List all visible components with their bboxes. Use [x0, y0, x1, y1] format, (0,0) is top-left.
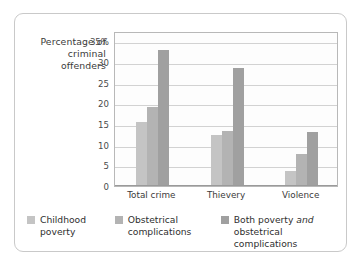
x-axis-category-label: Thievery [207, 190, 245, 200]
bar-group [211, 33, 244, 186]
x-axis-category-label: Violence [282, 190, 319, 200]
plot-area [114, 32, 338, 187]
bar [158, 50, 169, 186]
legend-swatch-icon [221, 216, 229, 224]
legend-item: Both poverty and obstetrical complicatio… [221, 214, 338, 250]
bar [307, 132, 318, 186]
bar-group [285, 33, 318, 186]
bar [233, 68, 244, 186]
y-axis-tick-label: 20 [98, 99, 109, 109]
legend-label: Childhood poverty [40, 214, 86, 238]
y-axis-tick-label: 15 [98, 120, 109, 130]
bar [296, 154, 307, 186]
bar [285, 171, 296, 186]
x-axis-category-label: Total crime [127, 190, 175, 200]
y-axis-tick-label: 30 [98, 58, 109, 68]
legend-swatch-icon [27, 216, 35, 224]
legend-item: Obstetrical complications [115, 214, 221, 250]
y-axis-tick-label: 10 [98, 141, 109, 151]
bar [147, 107, 158, 186]
chart-legend: Childhood povertyObstetrical complicatio… [27, 214, 338, 250]
legend-swatch-icon [115, 216, 123, 224]
bar [222, 131, 233, 186]
bar [211, 135, 222, 186]
chart-card: Percentage of criminal offenders 0510152… [14, 13, 347, 252]
legend-label: Obstetrical complications [128, 214, 192, 238]
y-axis-tick-label: 5 [104, 161, 109, 171]
legend-item: Childhood poverty [27, 214, 115, 250]
plot-wrapper: 05101520253035% Total crimeThieveryViole… [114, 32, 338, 187]
y-axis-tick-label: 25 [98, 79, 109, 89]
bar-group [136, 33, 169, 186]
bar [136, 122, 147, 186]
baseline-axis [115, 185, 337, 186]
legend-label: Both poverty and obstetrical complicatio… [234, 214, 338, 250]
y-axis-tick-label: 0 [104, 182, 109, 192]
y-axis-tick-label: 35% [90, 37, 109, 47]
